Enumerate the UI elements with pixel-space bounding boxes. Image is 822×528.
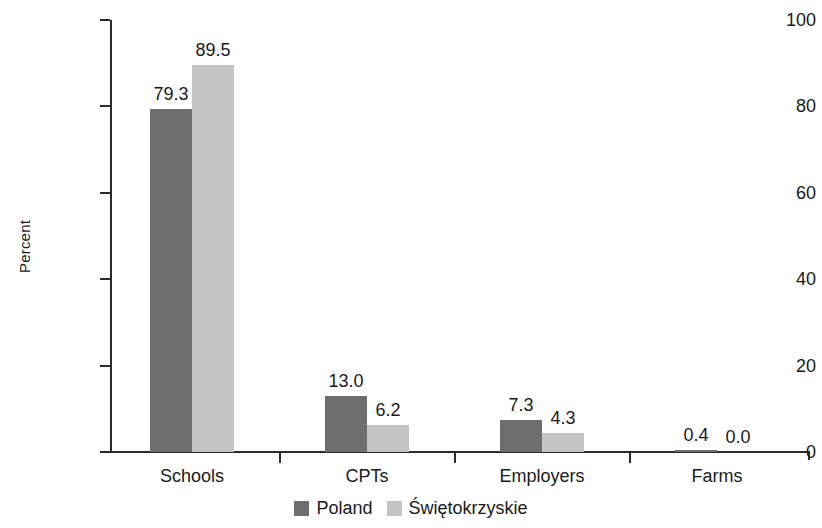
y-axis-tick xyxy=(100,278,110,280)
legend-label: Poland xyxy=(316,499,372,517)
legend-swatch-icon xyxy=(294,501,309,516)
x-axis-tick xyxy=(454,453,456,463)
chart-legend: PolandŚwiętokrzyskie xyxy=(0,499,822,517)
bar xyxy=(192,65,234,452)
bar xyxy=(325,396,367,452)
x-axis-tick xyxy=(629,453,631,463)
category-label-schools: Schools xyxy=(160,466,224,487)
bar-value-label: 79.3 xyxy=(153,84,188,105)
x-axis-tick xyxy=(279,453,281,463)
y-axis-tick xyxy=(100,19,110,21)
legend-item: Poland xyxy=(294,499,372,517)
bar xyxy=(542,433,584,452)
bar-value-label: 0.0 xyxy=(725,427,750,448)
y-axis-tick xyxy=(100,105,110,107)
legend-label: Świętokrzyskie xyxy=(409,499,528,517)
category-label-employers: Employers xyxy=(499,466,584,487)
bar xyxy=(367,425,409,452)
bar xyxy=(675,450,717,452)
legend-swatch-icon xyxy=(387,501,402,516)
bar-value-label: 6.2 xyxy=(375,400,400,421)
y-axis-tick xyxy=(100,451,110,453)
plot-area: 79.389.513.06.27.34.30.40.0 xyxy=(110,20,810,452)
category-label-cpts: CPTs xyxy=(345,466,388,487)
bar xyxy=(150,109,192,452)
bar-value-label: 13.0 xyxy=(328,371,363,392)
bar-value-label: 89.5 xyxy=(195,40,230,61)
y-axis-title-text: Percent xyxy=(17,219,34,272)
bar-value-label: 0.4 xyxy=(683,425,708,446)
y-axis-title: Percent xyxy=(8,196,42,296)
category-label-farms: Farms xyxy=(692,466,743,487)
bar-value-label: 7.3 xyxy=(508,395,533,416)
legend-item: Świętokrzyskie xyxy=(387,499,528,517)
y-axis-tick xyxy=(100,365,110,367)
bar xyxy=(500,420,542,452)
bar-chart: Percent 020406080100 79.389.513.06.27.34… xyxy=(0,0,822,528)
y-axis-tick xyxy=(100,192,110,194)
bar-value-label: 4.3 xyxy=(550,408,575,429)
